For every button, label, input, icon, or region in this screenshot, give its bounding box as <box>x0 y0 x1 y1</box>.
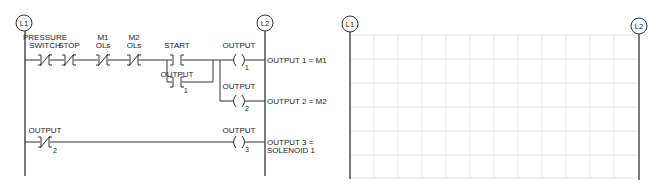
output-3-annotation-line2: SOLENOID 1 <box>267 146 316 155</box>
grid-rail-l2: L2 <box>631 18 647 180</box>
rung-1 <box>25 60 265 101</box>
output-1-annotation: OUTPUT 1 = M1 <box>267 56 327 65</box>
ladder-diagrams: L1 L2 PRESSURE SWITCH STOP <box>0 0 669 192</box>
svg-text:SWITCH: SWITCH <box>29 41 61 50</box>
contact-stop: STOP <box>58 41 80 66</box>
coil-output-3: OUTPUT 3 OUTPUT 3 = SOLENOID 1 <box>223 126 316 155</box>
grid-rail-label-l1: L1 <box>346 20 354 29</box>
svg-text:OUTPUT: OUTPUT <box>223 82 256 91</box>
svg-text:3: 3 <box>245 146 249 153</box>
svg-text:OUTPUT: OUTPUT <box>223 126 256 135</box>
svg-text:2: 2 <box>245 105 249 112</box>
svg-text:STOP: STOP <box>58 41 80 50</box>
coil-output-1: OUTPUT 1 OUTPUT 1 = M1 <box>223 41 328 71</box>
svg-text:1: 1 <box>184 87 188 94</box>
rail-label-l2: L2 <box>261 19 269 28</box>
rung-2: OUTPUT 2 OUTPUT 3 OUTPUT 3 = SOLENOID 1 <box>25 126 316 155</box>
rail-label-l1: L1 <box>20 19 28 28</box>
grid-lines <box>350 35 639 178</box>
left-ladder-diagram: L1 L2 PRESSURE SWITCH STOP <box>16 15 327 176</box>
svg-text:OLs: OLs <box>96 41 111 50</box>
svg-text:OLs: OLs <box>127 41 142 50</box>
output-2-annotation: OUTPUT 2 = M2 <box>267 97 327 106</box>
grid-rail-label-l2: L2 <box>635 22 643 31</box>
svg-text:2: 2 <box>53 147 57 154</box>
svg-text:OUTPUT: OUTPUT <box>223 41 256 50</box>
svg-text:1: 1 <box>245 64 249 71</box>
svg-text:OUTPUT: OUTPUT <box>161 70 194 79</box>
right-ladder-grid: L1 L2 <box>342 16 647 180</box>
contact-m2-ols: M2 OLs <box>127 33 142 66</box>
contact-m1-ols: M1 OLs <box>96 33 111 66</box>
coil-output-2: OUTPUT 2 OUTPUT 2 = M2 <box>223 82 328 112</box>
svg-text:START: START <box>164 41 190 50</box>
contact-start: START <box>164 41 190 65</box>
contact-output-2-nc: OUTPUT 2 <box>29 126 62 154</box>
svg-text:OUTPUT: OUTPUT <box>29 126 62 135</box>
